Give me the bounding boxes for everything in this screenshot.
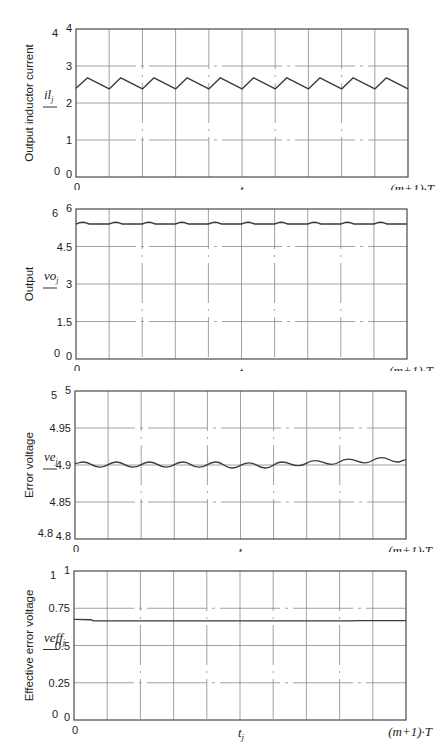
y-axis-title: Output [23,266,35,301]
y-tick-label: 3 [66,60,72,72]
y-outer-top-label: 1 [50,569,56,581]
output-voltage-plot: 01.534.56600(m+1)·TtjOutputvoj [0,181,445,371]
y-tick-label: 1.5 [57,316,72,328]
y-tick-label: 4.8 [56,530,71,542]
y-tick-label: 3 [66,278,72,290]
y-axis-title: Output inductor current [23,43,35,161]
y-tick-label: 0 [66,350,72,362]
y-outer-bottom-label: 0 [54,165,60,177]
y-tick-label: 4 [66,22,72,34]
y-tick-label: 4.9 [56,459,71,471]
y-outer-bottom-label: 0 [52,708,58,720]
effective-error-voltage-chart: 00.250.50.751100(m+1)·TtjEffective error… [0,543,445,756]
y-tick-label: 5 [65,384,71,396]
y-outer-top-label: 4 [52,27,58,39]
y-tick-label: 4.85 [50,496,71,508]
inductor-current-chart: 01234400(m+1)·TtjOutput inductor current… [0,0,445,190]
variable-label: ilj [44,87,54,104]
output-voltage-chart: 01.534.56600(m+1)·TtjOutputvoj [0,181,445,371]
y-tick-label: 0 [66,168,72,180]
variable-label: veffj [44,630,66,647]
x-tick-end: (m+1)·T [388,724,433,739]
y-tick-label: 0.25 [49,677,70,689]
y-tick-label: 6 [66,202,72,214]
error-voltage-chart: 4.84.854.94.95554.80(m+1)·TtjError volta… [0,362,445,552]
y-tick-label: 4.5 [57,241,72,253]
y-tick-label: 0.75 [49,602,70,614]
y-outer-bottom-label: 4.8 [38,527,53,539]
y-tick-label: 1 [66,134,72,146]
error-voltage-plot: 4.84.854.94.95554.80(m+1)·TtjError volta… [0,362,445,552]
y-tick-label: 0 [64,711,70,723]
y-tick-label: 4.95 [50,422,71,434]
y-outer-top-label: 5 [51,389,57,401]
variable-label: vej [44,449,59,466]
y-outer-bottom-label: 0 [54,347,60,359]
variable-label: voj [44,268,59,285]
effective-error-voltage-plot: 00.250.50.751100(m+1)·TtjEffective error… [0,543,445,756]
inductor-current-plot: 01234400(m+1)·TtjOutput inductor current… [0,0,445,190]
x-tick-start: 0 [72,724,78,736]
x-axis-label: tj [238,725,245,742]
y-axis-title: Error voltage [23,432,35,498]
y-axis-title: Effective error voltage [23,590,35,702]
y-tick-label: 1 [64,564,70,576]
y-outer-top-label: 6 [52,207,58,219]
y-tick-label: 2 [66,97,72,109]
